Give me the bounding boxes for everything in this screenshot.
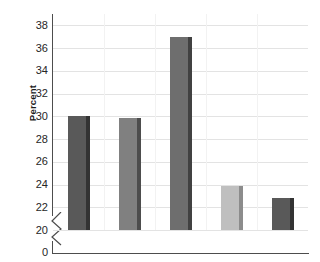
bar[interactable]: [272, 198, 294, 230]
y-tick-label: 36: [22, 43, 48, 54]
category-separator: [155, 14, 156, 230]
bar[interactable]: [170, 37, 192, 230]
y-tick-label: 30: [22, 111, 48, 122]
y-tick-label: 38: [22, 20, 48, 31]
bar-face: [272, 198, 290, 230]
bar-side-shade: [188, 37, 192, 230]
bar[interactable]: [221, 186, 243, 230]
bar-side-shade: [86, 116, 90, 230]
bar-side-shade: [290, 198, 294, 230]
bar[interactable]: [68, 116, 90, 230]
gridline: [53, 25, 308, 26]
category-separator: [206, 14, 207, 230]
plot-area: [53, 14, 308, 230]
bar-side-shade: [239, 186, 243, 230]
bar-face: [119, 118, 137, 231]
y-tick-label: 32: [22, 88, 48, 99]
bar-face: [221, 186, 239, 230]
y-tick-label: 26: [22, 156, 48, 167]
y-tick-label: 28: [22, 134, 48, 145]
bar-side-shade: [137, 118, 141, 231]
y-tick-label: 24: [22, 179, 48, 190]
x-axis-line: [52, 253, 309, 254]
bar[interactable]: [119, 118, 141, 231]
category-separator: [257, 14, 258, 230]
y-tick-label-zero: 0: [22, 247, 48, 258]
bar-chart: Percent 202224262830323436380: [0, 0, 320, 262]
bar-face: [68, 116, 86, 230]
category-separator: [104, 14, 105, 230]
y-tick-label: 34: [22, 65, 48, 76]
bar-face: [170, 37, 188, 230]
gridline: [53, 230, 308, 231]
